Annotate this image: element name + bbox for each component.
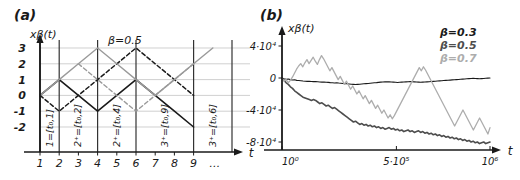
series-beta-0.5 (282, 78, 490, 144)
panel-a-ytick-5: -2 (14, 121, 27, 134)
panel-a-interval-label-2: 2⁺=[t₀,4] (111, 104, 122, 147)
panel-a-ylabel: xβ(t) (29, 28, 56, 41)
panel-a-xaxis-arrowhead (234, 148, 243, 155)
panel-a-interval-label-4: 3⁺=[t₀,6] (207, 104, 218, 147)
panel-b-legend-item-1: β=0.5 (439, 39, 477, 52)
panel-a-ytick-2: 1 (18, 74, 26, 87)
panel-b-legend-item-0: β=0.3 (439, 26, 477, 39)
panel-a-xtick-7: 8 (171, 157, 178, 170)
figure-root: (a)xβ(t)β=0.5t3210-1-2123456789…1=[t₀,1]… (0, 0, 520, 180)
panel-b-legend-item-2: β=0.7 (439, 52, 477, 65)
panel-b-xtick-2: 10⁶ (482, 156, 499, 167)
panel-b-plot: (b)xβ(t)t4·10⁴0-4·10⁴-8·10⁴10⁰5·10⁵10⁶β=… (258, 0, 520, 180)
panel-b-ylabel: xβ(t) (287, 22, 314, 35)
panel-b-yaxis-arrowhead (278, 26, 285, 35)
panel-b-xtick-1: 5·10⁵ (383, 156, 409, 167)
panel-a-xtick-5: 6 (133, 157, 140, 170)
panel-a-xtick-8: 9 (190, 157, 197, 170)
panel-b-ytick-1: 0 (270, 73, 276, 84)
panel-a: (a)xβ(t)β=0.5t3210-1-2123456789…1=[t₀,1]… (0, 0, 258, 180)
panel-a-interval-label-0: 1=[t₀,1] (44, 109, 55, 147)
series-beta-0.7 (282, 56, 490, 134)
panel-a-plot: (a)xβ(t)β=0.5t3210-1-2123456789…1=[t₀,1]… (0, 0, 258, 180)
panel-a-ytick-0: 3 (18, 42, 26, 55)
panel-a-xlabel: t (249, 146, 255, 160)
panel-a-ytick-4: -1 (14, 105, 26, 118)
panel-a-xtick-1: 2 (56, 157, 63, 170)
panel-b-xtick-0: 10⁰ (282, 156, 299, 167)
panel-b-xaxis-arrowhead (492, 146, 501, 153)
panel-a-xtick-2: 3 (75, 157, 82, 170)
panel-b-ytick-3: -8·10⁴ (246, 137, 276, 148)
panel-a-xtick-4: 5 (113, 157, 120, 170)
panel-a-tag: (a) (14, 7, 36, 23)
panel-b-tag: (b) (260, 7, 283, 23)
panel-b-ytick-0: 4·10⁴ (250, 41, 276, 52)
panel-a-ytick-1: 2 (18, 58, 26, 71)
panel-b-ytick-2: -4·10⁴ (246, 105, 276, 116)
panel-b: (b)xβ(t)t4·10⁴0-4·10⁴-8·10⁴10⁰5·10⁵10⁶β=… (258, 0, 520, 180)
panel-a-xtick-ellipsis: … (209, 157, 220, 170)
panel-a-xtick-6: 7 (152, 157, 159, 170)
panel-a-xtick-3: 4 (94, 157, 101, 170)
series-beta-0.3 (282, 78, 490, 85)
panel-a-xtick-0: 1 (37, 157, 44, 170)
panel-a-ytick-3: 0 (18, 89, 26, 102)
panel-a-interval-label-3: 3⁺=[t₀,9] (159, 104, 170, 147)
panel-b-xlabel: t (508, 144, 514, 158)
panel-a-interval-label-1: 2⁺=[t₀,2] (72, 104, 83, 147)
